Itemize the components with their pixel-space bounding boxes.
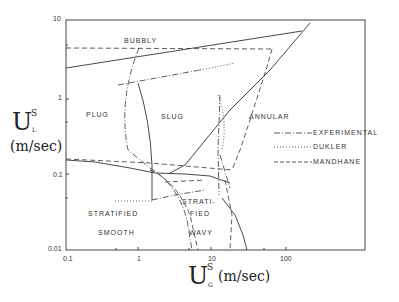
- region-fied: FIED: [190, 210, 210, 217]
- y-axis-subscript: L: [32, 126, 36, 133]
- y-axis-superscript: S: [31, 108, 37, 118]
- x-tick-10: 10: [208, 255, 216, 262]
- x-tick-0.1: 0.1: [63, 255, 73, 262]
- y-axis-label: U S L (m/sec): [12, 108, 32, 136]
- y-tick-10: 10: [53, 15, 61, 22]
- x-axis-symbol: U: [188, 262, 208, 290]
- x-tick-1: 1: [137, 255, 141, 262]
- x-axis-unit: (m/sec): [218, 268, 270, 284]
- x-axis-label: U S G (m/sec): [188, 262, 208, 290]
- legend-mandhane: MANDHANE: [313, 158, 361, 165]
- y-tick-1: 1: [58, 94, 62, 101]
- region-plug: PLUG: [86, 111, 109, 118]
- legend-experimental: EXFERIMENTAL: [313, 129, 378, 136]
- region-strati: STRATI-: [182, 198, 216, 205]
- region-smooth: SMOOTH: [98, 229, 135, 236]
- legend-dukler: DUKLER: [313, 143, 347, 150]
- region-bubbly: BUBBLY: [124, 37, 157, 44]
- x-axis-superscript: S: [207, 262, 213, 272]
- x-axis-subscript: G: [208, 281, 213, 288]
- x-tick-100: 100: [280, 255, 292, 262]
- dukler-lines: [115, 63, 235, 201]
- y-tick-0.01: 0.01: [48, 245, 62, 252]
- y-tick-0.1: 0.1: [53, 171, 63, 178]
- y-axis-unit: (m/sec): [10, 138, 62, 154]
- experimental-lines: [118, 48, 230, 250]
- region-annular: ANNULAR: [249, 113, 289, 120]
- mandhane-lines: [66, 48, 272, 250]
- y-axis-symbol: U: [12, 108, 32, 136]
- region-wavy: WAVY: [189, 229, 213, 236]
- region-stratified: STRATIFIED: [88, 210, 138, 217]
- region-slug: SLUG: [161, 113, 184, 120]
